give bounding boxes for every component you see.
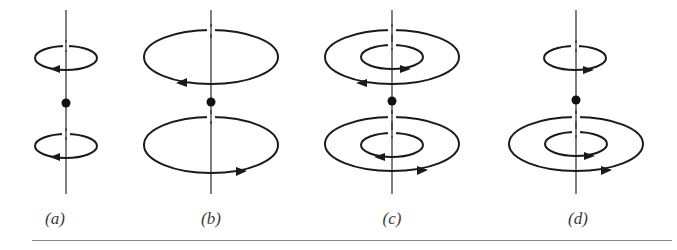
center-dot	[572, 96, 581, 105]
panel-d	[509, 10, 643, 194]
arrow-left-icon	[176, 78, 187, 87]
arrow-left-icon	[50, 153, 60, 161]
arrow-left-icon	[50, 65, 60, 73]
center-dot	[207, 98, 216, 107]
panel-label-c: (c)	[383, 209, 402, 229]
panel-label-b: (b)	[201, 209, 221, 229]
panel-a	[35, 10, 97, 194]
panel-label-a: (a)	[45, 209, 65, 229]
top-loop-small-right	[544, 40, 606, 74]
center-dot	[388, 97, 397, 106]
panel-b	[144, 10, 278, 194]
panel-label-d: (d)	[568, 209, 588, 229]
center-dot	[62, 99, 71, 108]
bottom-rule-divider	[32, 240, 672, 241]
panel-c	[325, 10, 459, 194]
